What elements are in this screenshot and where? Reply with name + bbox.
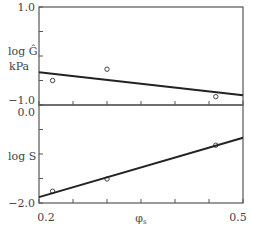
bottom-y-max-label: 0.0	[18, 106, 36, 119]
data-point	[50, 78, 54, 82]
fit-line	[39, 138, 243, 197]
top-y-axis-label: log Ĝ	[8, 44, 37, 58]
data-point	[105, 67, 109, 71]
chart: 1.0 −1.0 log Ĝ kPa 0.0 −2.0 log S 0.2 0.…	[0, 0, 253, 231]
fit-line	[39, 72, 243, 95]
top-panel	[39, 7, 243, 105]
x-max-label: 0.5	[229, 211, 247, 224]
data-point	[214, 94, 218, 98]
top-y-axis-unit: kPa	[9, 60, 30, 73]
bottom-y-min-label: −2.0	[8, 197, 35, 210]
x-axis-subscript: s	[143, 218, 147, 226]
bottom-y-axis-label: log S	[8, 150, 36, 163]
plot-frame	[39, 7, 243, 105]
x-min-label: 0.2	[37, 211, 55, 224]
bottom-panel	[39, 105, 243, 203]
top-y-max-label: 1.0	[18, 1, 36, 14]
x-axis-label: φs	[135, 212, 147, 226]
